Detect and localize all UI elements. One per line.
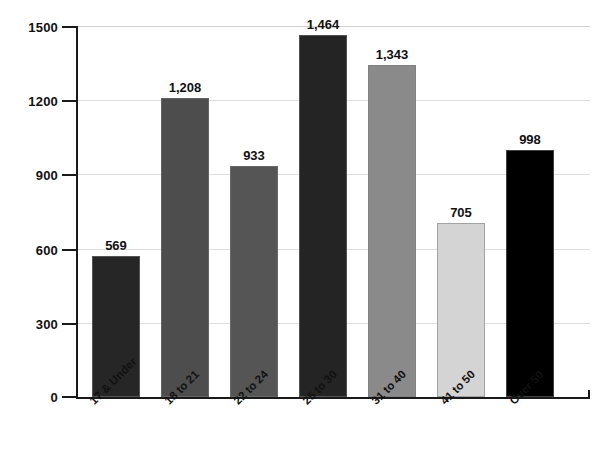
bar-value-25-to-30: 1,464 [288, 18, 358, 31]
bar-value-18-to-21: 1,208 [150, 81, 220, 94]
y-axis-label-1200: 1200 [2, 95, 58, 108]
bar-value-over-50: 998 [495, 133, 565, 146]
y-axis-label-0: 0 [2, 391, 58, 404]
y-tick-1500 [62, 26, 76, 28]
y-tick-0 [62, 396, 76, 398]
y-tick-300 [62, 323, 76, 325]
bar-chart: 1500 1200 900 600 300 0 569 1,208 933 1,… [0, 0, 611, 464]
bar-value-22-to-24: 933 [219, 149, 289, 162]
y-axis-labels: 1500 1200 900 600 300 0 [0, 0, 58, 464]
y-axis-label-300: 300 [2, 318, 58, 331]
y-axis-label-1500: 1500 [2, 21, 58, 34]
bar-value-41-to-50: 705 [426, 206, 496, 219]
y-tick-600 [62, 249, 76, 251]
x-axis-labels: 17 & Under 18 to 21 22 to 24 25 to 30 31… [76, 399, 611, 464]
y-tick-1200 [62, 100, 76, 102]
bar-value-17-and-under: 569 [81, 239, 151, 252]
y-axis-label-900: 900 [2, 169, 58, 182]
y-axis-label-600: 600 [2, 244, 58, 257]
bar-value-31-to-40: 1,343 [357, 48, 427, 61]
bar-value-labels: 569 1,208 933 1,464 1,343 705 998 [76, 26, 590, 397]
y-tick-900 [62, 174, 76, 176]
